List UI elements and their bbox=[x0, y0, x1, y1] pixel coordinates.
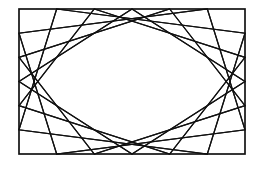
inscribed-quad-b-5 bbox=[19, 9, 245, 154]
inscribed-quad-a-3 bbox=[19, 9, 245, 154]
inscribed-quad-a-1 bbox=[19, 9, 245, 154]
inscribed-quad-b-1 bbox=[19, 9, 245, 154]
inscribed-quad-a-4 bbox=[19, 9, 245, 154]
inscribed-quad-b-2 bbox=[19, 9, 245, 154]
inscribed-quad-b-3 bbox=[19, 9, 245, 154]
line-pattern-diagram bbox=[0, 0, 264, 170]
inscribed-quad-b-4 bbox=[19, 9, 245, 154]
inscribed-quad-a-5 bbox=[19, 9, 245, 154]
inscribed-quadrilaterals bbox=[19, 9, 245, 154]
geometric-figure: Inscribed rotating quadrilaterals formin… bbox=[0, 0, 264, 170]
outer-rectangle bbox=[19, 9, 245, 154]
inscribed-quad-a-2 bbox=[19, 9, 245, 154]
